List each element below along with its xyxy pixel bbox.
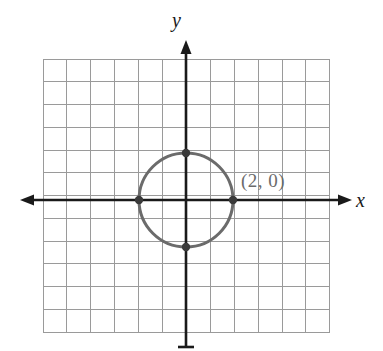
- point-coordinate-label: (2, 0): [241, 171, 285, 190]
- x-axis-arrow-right: [338, 195, 352, 206]
- coordinate-plane-figure: y x (2, 0): [0, 0, 383, 351]
- x-axis-arrow-left: [20, 195, 34, 206]
- point-neg2-0: [135, 196, 143, 204]
- y-axis-label: y: [172, 10, 181, 30]
- coordinate-plane-graphic: [0, 0, 383, 351]
- point-0-2: [182, 149, 190, 157]
- point-0-neg2: [182, 243, 190, 251]
- y-axis: [178, 40, 194, 348]
- x-axis-label: x: [356, 190, 365, 210]
- point-2-0: [229, 196, 237, 204]
- y-axis-arrow-top: [181, 40, 192, 54]
